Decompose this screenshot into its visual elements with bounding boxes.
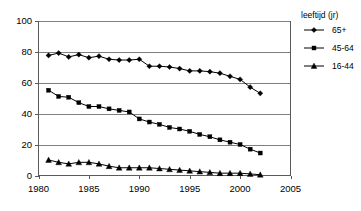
- data-point-2002: [258, 151, 262, 155]
- legend-label: 16-44: [332, 61, 354, 71]
- data-point-1994: [178, 127, 182, 131]
- x-tick-label-1990: 1990: [129, 183, 150, 194]
- data-point-1995: [188, 129, 192, 133]
- chart-canvas: 020406080100 198019851990199520002005 le…: [0, 0, 361, 211]
- y-tick-label-0: 0: [27, 170, 32, 181]
- axes: [39, 21, 291, 176]
- data-point-1997: [207, 69, 212, 74]
- data-point-1996: [197, 68, 202, 73]
- data-point-1993: [168, 125, 172, 129]
- data-point-1994: [177, 66, 182, 71]
- data-point-1986: [96, 54, 101, 59]
- data-point-1982: [57, 94, 61, 98]
- data-point-1991: [147, 120, 151, 124]
- data-point-1985: [87, 105, 91, 109]
- legend-label: 45-64: [332, 43, 354, 53]
- data-point-1999: [228, 140, 232, 144]
- data-point-1988: [117, 108, 121, 112]
- data-point-1992: [157, 122, 161, 126]
- data-point-1986: [97, 105, 101, 109]
- data-point-2000: [238, 143, 242, 147]
- legend-title: leeftijd (jr): [301, 10, 338, 20]
- legend-entry-45-64[interactable]: 45-64: [304, 43, 354, 53]
- chart-legend: leeftijd (jr)65+45-6416-44: [301, 10, 354, 71]
- gridlines: [39, 22, 291, 146]
- x-tick-label-1980: 1980: [28, 183, 49, 194]
- data-point-1998: [217, 71, 222, 76]
- y-tick-label-40: 40: [21, 108, 32, 119]
- data-point-1987: [107, 107, 111, 111]
- data-point-1987: [106, 57, 111, 62]
- data-point-1995: [187, 68, 192, 73]
- series-markers: [46, 50, 263, 95]
- data-point-1981: [46, 157, 52, 162]
- legend-marker-icon: [311, 27, 316, 32]
- x-tick-label-1985: 1985: [78, 183, 99, 194]
- y-axis-tick-labels: 020406080100: [16, 15, 32, 181]
- data-point-1989: [127, 110, 131, 114]
- x-axis-tick-labels: 198019851990199520002005: [28, 183, 301, 194]
- y-tick-label-20: 20: [21, 139, 32, 150]
- data-point-1993: [167, 64, 172, 69]
- x-tick-label-2005: 2005: [280, 183, 301, 194]
- data-point-1998: [218, 138, 222, 142]
- data-point-1984: [77, 101, 81, 105]
- data-point-1996: [198, 132, 202, 136]
- x-tick-label-1995: 1995: [179, 183, 200, 194]
- series-markers: [46, 157, 263, 177]
- data-point-1997: [208, 135, 212, 139]
- legend-label: 65+: [332, 25, 346, 35]
- y-tick-label-80: 80: [21, 46, 32, 57]
- data-point-2002: [258, 91, 263, 96]
- legend-entry-65-[interactable]: 65+: [304, 25, 346, 35]
- data-point-1985: [86, 55, 91, 60]
- data-point-1988: [117, 57, 122, 62]
- data-point-1981: [47, 88, 51, 92]
- y-tick-label-100: 100: [16, 15, 32, 26]
- y-tick-label-60: 60: [21, 77, 32, 88]
- x-tick-label-2000: 2000: [230, 183, 251, 194]
- line-chart: 020406080100 198019851990199520002005 le…: [0, 0, 361, 211]
- data-point-1989: [127, 57, 132, 62]
- data-point-1981: [46, 53, 51, 58]
- legend-entry-16-44[interactable]: 16-44: [304, 61, 354, 71]
- series-16-44: [46, 157, 263, 177]
- data-point-2001: [248, 147, 252, 151]
- legend-marker-icon: [312, 46, 316, 50]
- data-point-1982: [56, 50, 61, 55]
- data-point-1983: [67, 95, 71, 99]
- data-point-1999: [227, 74, 232, 79]
- series-line: [49, 53, 261, 93]
- series-65-: [46, 50, 263, 95]
- data-point-1992: [157, 64, 162, 69]
- data-series-layer: [46, 50, 263, 177]
- data-point-1990: [137, 117, 141, 121]
- data-point-1983: [66, 54, 71, 59]
